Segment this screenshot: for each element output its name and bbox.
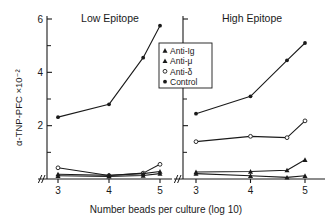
x-tick-label-4-panel1: 4: [248, 185, 254, 196]
legend-label-3: Control: [170, 77, 198, 87]
data-point-1-1-1: [249, 134, 253, 138]
y-axis-title: α-TNP-PFC ×10⁻²: [13, 69, 24, 146]
y-tick-label-4: 4: [37, 67, 43, 78]
data-point-1-0-2: [285, 58, 289, 62]
legend-marker-filled-circle-3: [163, 80, 167, 84]
data-point-0-0-1: [107, 102, 111, 106]
legend-box[interactable]: Anti-IgAnti-μAnti-δControl: [159, 43, 212, 88]
chart-svg: 246345Low Epitope345High EpitopeNumber b…: [0, 0, 333, 220]
x-tick-label-3-panel0: 3: [55, 185, 61, 196]
data-point-1-0-0: [194, 112, 198, 116]
data-point-0-1-0: [56, 166, 60, 170]
data-point-1-1-3: [303, 119, 307, 123]
legend-label-1: Anti-μ: [170, 56, 192, 66]
legend-marker-open-circle-2: [163, 69, 167, 73]
data-point-1-0-3: [303, 41, 307, 45]
x-tick-label-3-panel1: 3: [193, 185, 199, 196]
panel-title-1: High Epitope: [222, 12, 282, 24]
data-point-0-1-3: [158, 162, 162, 166]
legend-label-0: Anti-Ig: [170, 46, 195, 56]
data-point-1-0-1: [249, 94, 253, 98]
data-point-1-1-0: [194, 140, 198, 144]
panel-title-0: Low Epitope: [81, 12, 139, 24]
x-axis-title: Number beads per culture (log 10): [90, 204, 242, 215]
y-tick-label-2: 2: [37, 120, 43, 131]
x-tick-label-5-panel1: 5: [302, 185, 308, 196]
legend-label-2: Anti-δ: [170, 67, 192, 77]
data-point-0-0-0: [56, 115, 60, 119]
chart-figure: 246345Low Epitope345High EpitopeNumber b…: [0, 0, 333, 220]
chart-background: [0, 0, 333, 220]
data-point-1-1-2: [285, 136, 289, 140]
y-tick-label-6: 6: [37, 14, 43, 25]
x-tick-label-4-panel0: 4: [106, 185, 112, 196]
x-tick-label-5-panel0: 5: [157, 185, 163, 196]
data-point-0-0-2: [141, 56, 145, 60]
data-point-0-0-3: [158, 24, 162, 28]
